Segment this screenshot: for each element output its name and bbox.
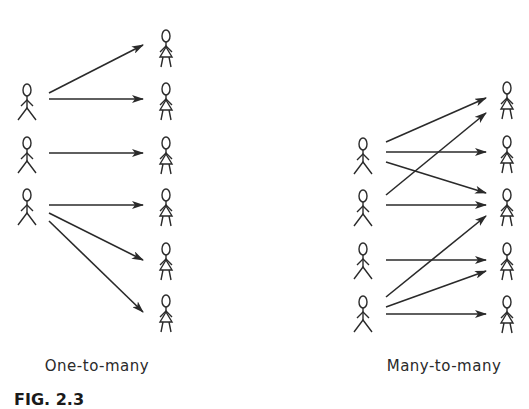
target-person-icon	[501, 189, 513, 226]
source-person-icon	[18, 84, 36, 120]
target-person-icon	[160, 295, 172, 332]
relationship-arrow	[386, 271, 486, 307]
relationship-arrow	[386, 162, 486, 193]
relationship-arrow	[49, 213, 143, 260]
target-person-icon	[160, 243, 172, 280]
target-person-icon	[501, 136, 513, 173]
target-person-icon	[160, 30, 172, 67]
figure-caption: FIG. 2.3	[14, 390, 84, 409]
one-to-many-panel	[18, 30, 172, 332]
source-person-icon	[18, 137, 36, 173]
relationship-arrow	[49, 45, 143, 93]
relationship-arrow	[386, 216, 486, 297]
source-person-icon	[354, 190, 372, 226]
target-person-icon	[160, 83, 172, 120]
target-person-icon	[501, 296, 513, 333]
target-person-icon	[501, 82, 513, 119]
source-person-icon	[18, 189, 36, 225]
target-person-icon	[501, 243, 513, 280]
target-person-icon	[160, 137, 172, 174]
source-person-icon	[354, 138, 372, 174]
relationship-arrow	[386, 113, 486, 195]
one-to-many-label: One-to-many	[45, 357, 149, 375]
relationship-arrow	[386, 98, 486, 142]
target-person-icon	[160, 189, 172, 226]
many-to-many-panel	[354, 82, 513, 333]
source-person-icon	[354, 243, 372, 279]
relationship-arrow	[49, 221, 143, 312]
many-to-many-label: Many-to-many	[387, 357, 502, 375]
source-person-icon	[354, 296, 372, 332]
